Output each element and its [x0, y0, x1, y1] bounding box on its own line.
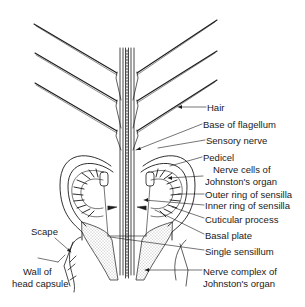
- label-outer-ring: Outer ring of sensilla: [205, 189, 292, 200]
- label-single-sensillum: Single sensillum: [205, 246, 274, 257]
- label-nerve-complex-line2: Johnston's organ: [203, 278, 275, 289]
- label-cuticular-process: Cuticular process: [205, 214, 278, 225]
- label-sensory-nerve: Sensory nerve: [206, 135, 267, 146]
- label-wall-line1: Wall of: [23, 266, 52, 277]
- hairs-left: [34, 24, 117, 133]
- diagram-drawing: [0, 0, 305, 307]
- label-hair: Hair: [207, 102, 224, 113]
- johnstons-organ-diagram: Hair Base of flagellum Sensory nerve Ped…: [0, 0, 305, 307]
- label-nerve-cells-line1: Nerve cells of: [213, 164, 271, 175]
- label-pedicel: Pedicel: [203, 152, 234, 163]
- label-nerve-complex-line1: Nerve complex of: [203, 266, 277, 277]
- label-inner-ring: Inner ring of sensilla: [205, 200, 290, 211]
- label-base-of-flagellum: Base of flagellum: [203, 119, 276, 130]
- hairs-right: [137, 20, 217, 133]
- label-scape: Scape: [31, 226, 58, 237]
- label-basal-plate: Basal plate: [205, 230, 252, 241]
- label-wall-line2: head capsule: [12, 278, 69, 289]
- label-nerve-cells-line2: Johnston's organ: [205, 176, 277, 187]
